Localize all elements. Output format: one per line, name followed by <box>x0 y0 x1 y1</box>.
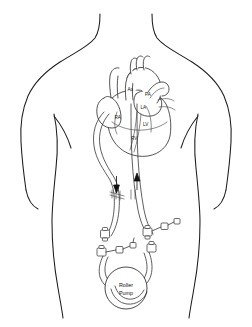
connector-venous-upper <box>101 228 110 242</box>
bypass-diagram: Ao PA LA RA LV RV <box>0 0 252 327</box>
roller-pump: Roller Pump <box>105 267 147 309</box>
label-pa: PA <box>145 92 152 97</box>
connector-arterial-upper <box>143 219 180 240</box>
connector-arterial-lower <box>147 242 156 253</box>
roller-pump-circle <box>105 267 147 309</box>
label-ra: RA <box>115 115 122 120</box>
heart-illustration <box>97 56 175 156</box>
roller-pump-label-line1: Roller <box>119 282 133 288</box>
label-ao: Ao <box>128 87 134 92</box>
figure-canvas: Ao PA LA RA LV RV <box>0 0 252 327</box>
roller-pump-label-line2: Pump <box>119 290 133 296</box>
label-la: LA <box>141 105 148 110</box>
